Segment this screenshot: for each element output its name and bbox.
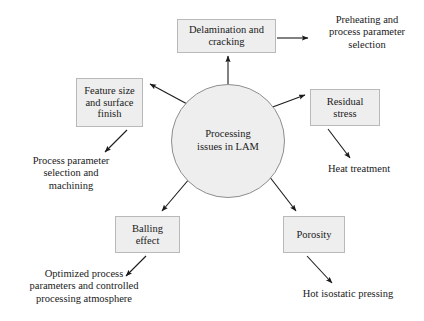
- issue-node-delamination: Delamination and cracking: [177, 19, 276, 53]
- remedy-label-hot-isostatic-pressing: Hot isostatic pressing: [282, 288, 414, 300]
- connector-center-to-porosity: [269, 176, 296, 211]
- connector-porosity-to-hot-isostatic-pressing: [307, 256, 332, 283]
- remedy-label-machining: Process parameter selection and machinin…: [8, 155, 134, 192]
- connector-residual-stress-to-heat-treatment: [328, 129, 350, 158]
- diagram-canvas: Processing issues in LAM Delamination an…: [0, 0, 424, 321]
- center-node-processing-issues: Processing issues in LAM: [171, 84, 285, 198]
- issue-node-feature-size: Feature size and surface finish: [76, 78, 143, 127]
- issue-node-residual-stress: Residual stress: [310, 89, 380, 126]
- connector-center-to-feature-size: [150, 84, 189, 105]
- issue-node-porosity: Porosity: [283, 216, 345, 253]
- issue-node-balling-effect: Balling effect: [115, 216, 180, 253]
- connector-feature-size-to-machining: [105, 130, 127, 152]
- remedy-label-optimized-atmosphere: Optimized process parameters and control…: [10, 268, 158, 305]
- connector-center-to-residual-stress: [270, 95, 305, 108]
- remedy-label-preheating: Preheating and process parameter selecti…: [312, 14, 422, 51]
- remedy-label-heat-treatment: Heat treatment: [307, 163, 411, 175]
- connector-center-to-balling-effect: [162, 178, 190, 211]
